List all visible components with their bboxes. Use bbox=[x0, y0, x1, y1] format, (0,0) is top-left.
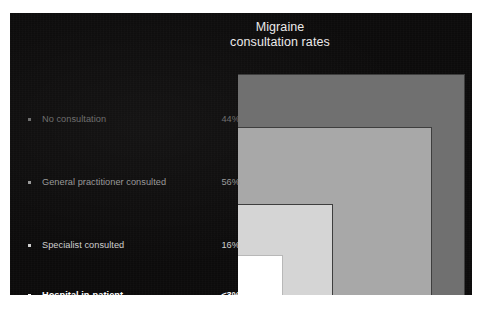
chart-title: Migraine consultation rates bbox=[170, 20, 390, 50]
square-bullet-icon bbox=[28, 118, 31, 121]
square-bullet-icon bbox=[28, 294, 31, 295]
legend-label: General practitioner consulted bbox=[42, 177, 208, 187]
square-bullet-icon bbox=[28, 181, 31, 184]
legend-item-specialist-consulted: Specialist consulted 16% bbox=[28, 238, 240, 252]
legend-item-general-practitioner-consulted: General practitioner consulted 56% bbox=[28, 175, 240, 189]
chart-legend: No consultation 44% General practitioner… bbox=[10, 13, 248, 295]
legend-item-no-consultation: No consultation 44% bbox=[28, 112, 240, 126]
legend-value: 16% bbox=[208, 240, 240, 250]
legend-label: Hospital in-patient bbox=[42, 290, 208, 295]
chart-canvas: Migraine consultation rates No consultat… bbox=[10, 13, 472, 295]
legend-item-hospital-in-patient: Hospital in-patient <3% bbox=[28, 288, 240, 295]
slide-root: Migraine consultation rates No consultat… bbox=[0, 0, 489, 311]
legend-label: No consultation bbox=[42, 114, 208, 124]
legend-value: 44% bbox=[208, 114, 240, 124]
legend-label: Specialist consulted bbox=[42, 240, 208, 250]
chart-title-line-1: Migraine bbox=[170, 20, 390, 35]
legend-value: 56% bbox=[208, 177, 240, 187]
chart-title-line-2: consultation rates bbox=[170, 35, 390, 50]
legend-value: <3% bbox=[208, 290, 240, 295]
square-bullet-icon bbox=[28, 244, 31, 247]
